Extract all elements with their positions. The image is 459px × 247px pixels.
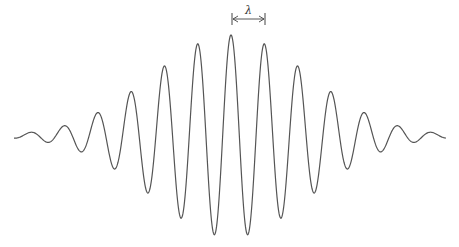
wavelength-label: λ bbox=[245, 4, 252, 17]
wave-packet-diagram bbox=[0, 0, 459, 247]
wave-packet-curve bbox=[14, 35, 446, 235]
